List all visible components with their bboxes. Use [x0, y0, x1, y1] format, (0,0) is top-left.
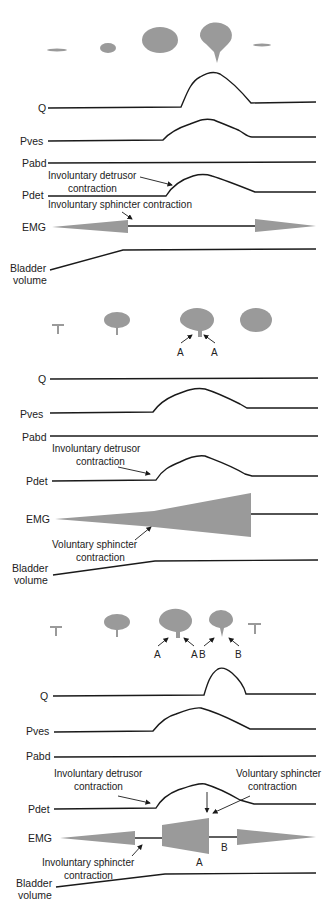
label-q: Q	[38, 102, 46, 114]
bladder-empty-after-icon	[248, 623, 261, 634]
trace-volume	[50, 249, 316, 270]
emg-burst	[154, 493, 251, 537]
trace-pves	[50, 388, 318, 413]
annotation-inv-sphincter: Involuntary sphincter	[42, 857, 135, 868]
bladder-voiding-icon	[200, 22, 232, 63]
label-emg: EMG	[28, 832, 52, 844]
trace-q	[53, 668, 316, 696]
arrow-a1	[181, 335, 192, 343]
arrow-inv-sphincter	[132, 845, 142, 856]
panel-2: A A Q Pves Pabd Involuntary detrusor con…	[12, 308, 318, 586]
emg-burst-left	[60, 831, 135, 845]
emg-burst-voluntary	[162, 818, 209, 854]
label-volume-2: volume	[18, 889, 52, 901]
label-a2: A	[191, 649, 198, 660]
label-volume-1: Bladder	[12, 562, 49, 574]
label-pdet: Pdet	[28, 803, 50, 815]
bladder-empty-icon	[52, 324, 64, 334]
label-pdet: Pdet	[22, 189, 44, 201]
panel-3: A A B B Q Pves Pabd Involuntary detrusor…	[16, 609, 322, 901]
annotation-detrusor-line2: contraction	[76, 456, 125, 467]
label-pabd: Pabd	[22, 157, 47, 169]
annotation-sphincter-line2: contraction	[76, 552, 125, 563]
label-pabd: Pabd	[22, 431, 47, 443]
bladder-voiding-icon	[209, 610, 233, 637]
bladder-empty-icon	[50, 626, 62, 636]
label-pves: Pves	[20, 408, 43, 420]
emg-ramp	[55, 511, 154, 527]
trace-pabd	[54, 756, 316, 757]
label-b1: B	[199, 649, 206, 660]
bladder-shapes	[50, 609, 261, 638]
trace-pabd	[48, 162, 316, 163]
trace-pves	[48, 119, 316, 141]
label-pdet: Pdet	[26, 475, 48, 487]
annotation-detrusor: Involuntary detrusor	[52, 443, 141, 454]
label-q: Q	[40, 690, 48, 702]
bladder-shapes	[47, 22, 271, 63]
label-pabd: Pabd	[26, 750, 51, 762]
label-emg: EMG	[22, 221, 46, 233]
emg-burst-left	[52, 220, 128, 233]
bladder-shapes	[52, 308, 272, 337]
arrow-b1	[204, 638, 214, 646]
label-volume-1: Bladder	[10, 262, 47, 274]
bladder-empty-icon	[47, 49, 67, 52]
annotation-detrusor: Involuntary detrusor	[54, 768, 143, 779]
bladder-full-closed-icon	[180, 308, 214, 337]
label-a2: A	[211, 347, 218, 358]
annotation-detrusor: Involuntary detrusor	[48, 170, 137, 181]
label-b2: B	[235, 649, 242, 660]
label-emg-b: B	[221, 842, 228, 853]
label-emg: EMG	[26, 513, 50, 525]
annotation-vol-sphincter-line2: contraction	[248, 781, 297, 792]
annotation-sphincter: Involuntary sphincter contraction	[48, 199, 192, 210]
bladder-empty-after-icon	[253, 44, 271, 47]
arrow-detrusor	[140, 177, 172, 185]
annotation-detrusor-line2: contraction	[68, 183, 117, 194]
label-volume-1: Bladder	[16, 877, 53, 889]
arrow-vol-sphincter-2	[213, 796, 250, 813]
bladder-small-icon	[104, 614, 130, 637]
label-pves: Pves	[26, 725, 49, 737]
annotation-inv-sphincter-line2: contraction	[64, 870, 113, 881]
arrow-detrusor	[118, 467, 150, 474]
trace-q	[48, 72, 316, 108]
label-a1: A	[154, 649, 161, 660]
annotation-detrusor-line2: contraction	[74, 781, 123, 792]
trace-pves	[54, 708, 316, 732]
urodynamic-diagram: Q Pves Pabd Involuntary detrusor contrac…	[0, 0, 336, 909]
arrow-b2	[229, 638, 239, 646]
arrow-a1	[158, 638, 168, 646]
annotation-sphincter: Voluntary sphincter	[52, 539, 138, 550]
label-volume-2: volume	[13, 274, 47, 286]
bladder-full-icon	[240, 308, 272, 332]
bladder-full-closed-icon	[159, 609, 192, 638]
label-volume-2: volume	[14, 574, 48, 586]
arrow-a2	[204, 335, 215, 343]
label-q: Q	[38, 373, 46, 385]
label-emg-a: A	[196, 857, 203, 868]
label-a1: A	[177, 347, 184, 358]
arrow-detrusor	[118, 796, 150, 803]
label-pves: Pves	[20, 135, 43, 147]
emg-burst-right	[237, 829, 316, 845]
trace-q	[50, 378, 318, 379]
bladder-small-icon	[104, 312, 130, 335]
emg-burst-right	[255, 219, 316, 232]
arrow-sphincter	[122, 212, 132, 219]
bladder-small-icon	[100, 43, 116, 53]
panel-1: Q Pves Pabd Involuntary detrusor contrac…	[10, 22, 316, 286]
bladder-full-icon	[142, 27, 178, 53]
arrow-a2	[184, 638, 194, 646]
arrow-sphincter	[135, 527, 151, 540]
annotation-vol-sphincter: Voluntary sphincter	[236, 768, 322, 779]
